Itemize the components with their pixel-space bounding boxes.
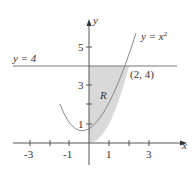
x-tick-label-3: 3 (146, 148, 152, 160)
y-tick-label-3: 3 (78, 79, 84, 91)
y-tick-label-5: 5 (78, 41, 84, 53)
shaded-region-r (89, 66, 129, 143)
hline-label: y = 4 (12, 52, 37, 64)
point-label: (2, 4) (130, 68, 154, 81)
curve-label: y = x2 (140, 30, 168, 42)
x-tick-label-1: 1 (106, 148, 112, 160)
region-label: R (99, 89, 107, 101)
y-axis-label: y (92, 14, 98, 26)
y-tick-label-1: 1 (78, 118, 84, 130)
x-tick-label-neg3: -3 (24, 148, 34, 160)
x-tick-label-neg1: -1 (63, 148, 72, 160)
y-axis-arrow-icon (87, 19, 92, 26)
diagram-canvas: -3 -1 1 3 1 3 5 y x y = 4 y = x2 (2, 4) … (0, 0, 192, 171)
x-axis-label: x (181, 139, 187, 151)
